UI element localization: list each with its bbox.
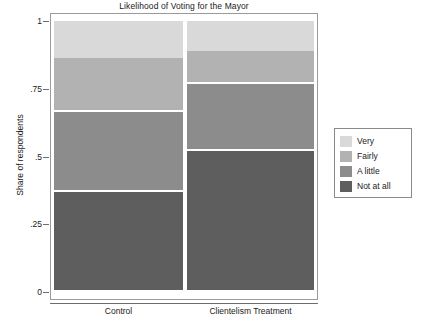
bar-segment-a-little [54, 112, 183, 190]
bar-segment-fairly [54, 58, 183, 110]
y-tick-label: 0 [37, 287, 42, 297]
y-tick-mark [43, 21, 49, 22]
legend-swatch-icon [340, 166, 352, 177]
legend-swatch-icon [340, 136, 352, 147]
legend-item-not-at-all: Not at all [340, 179, 407, 194]
chart-title: Likelihood of Voting for the Mayor [50, 1, 318, 11]
plot-area [54, 21, 314, 292]
y-tick-1: .75 [0, 89, 50, 99]
x-tick-label-control: Control [54, 306, 183, 316]
bar-segment-not-at-all [54, 192, 183, 290]
bar-column-control [54, 21, 183, 292]
bar-segment-fairly [187, 51, 314, 83]
y-tick-label: .75 [30, 84, 42, 94]
x-axis-line [50, 303, 318, 304]
legend-item-a-little: A little [340, 164, 407, 179]
x-tick-label-clientelism-treatment: Clientelism Treatment [187, 306, 314, 316]
bar-segment-very [54, 21, 183, 58]
y-tick-mark [43, 292, 49, 293]
legend-swatch-icon [340, 151, 352, 162]
y-tick-mark [43, 157, 49, 158]
bar-segment-a-little [187, 84, 314, 148]
legend-label: Very [357, 136, 374, 147]
legend-item-fairly: Fairly [340, 149, 407, 164]
y-tick-label: 1 [37, 16, 42, 26]
bar-column-clientelism-treatment [187, 21, 314, 292]
bar-segment-not-at-all [187, 151, 314, 290]
legend-label: A little [357, 166, 380, 177]
legend-swatch-icon [340, 181, 352, 192]
y-tick-mark [43, 224, 49, 225]
chart-figure: Likelihood of Voting for the Mayor Share… [0, 0, 421, 319]
y-tick-2: .5 [0, 157, 50, 167]
bar-segment-very [187, 21, 314, 51]
y-tick-mark [43, 89, 49, 90]
legend-item-very: Very [340, 134, 407, 149]
y-axis-ticks: 1.75.5.250 [0, 0, 50, 319]
y-tick-0: 1 [0, 21, 50, 31]
y-tick-label: .25 [30, 219, 42, 229]
legend-label: Not at all [357, 181, 391, 192]
legend-label: Fairly [357, 151, 378, 162]
legend: VeryFairlyA littleNot at all [334, 128, 412, 198]
y-tick-4: 0 [0, 292, 50, 302]
y-tick-3: .25 [0, 224, 50, 234]
y-tick-label: .5 [35, 152, 42, 162]
